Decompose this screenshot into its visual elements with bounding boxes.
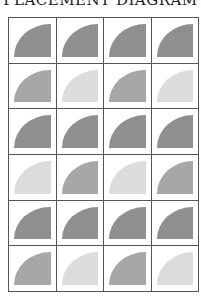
grid-cell <box>9 109 57 155</box>
quarter-circle-tile <box>62 24 99 57</box>
grid-cell <box>57 18 105 64</box>
grid-cell <box>9 155 57 201</box>
grid-cell <box>57 246 105 292</box>
quarter-circle-tile <box>14 24 51 57</box>
grid-cell <box>9 18 57 64</box>
quarter-circle-tile <box>14 70 51 103</box>
quarter-circle-tile <box>157 115 194 148</box>
grid-cell <box>9 201 57 247</box>
quarter-circle-tile <box>109 161 146 194</box>
placement-grid <box>8 17 199 292</box>
quarter-circle-tile <box>14 252 51 285</box>
quarter-circle-tile <box>157 252 194 285</box>
quarter-circle-tile <box>14 115 51 148</box>
quarter-circle-tile <box>14 207 51 240</box>
quarter-circle-tile <box>109 115 146 148</box>
quarter-circle-tile <box>109 24 146 57</box>
grid-cell <box>104 246 152 292</box>
grid-cell <box>152 18 200 64</box>
quarter-circle-tile <box>62 70 99 103</box>
quarter-circle-tile <box>109 70 146 103</box>
quarter-circle-tile <box>62 161 99 194</box>
grid-cell <box>9 246 57 292</box>
grid-cell <box>152 201 200 247</box>
grid-cell <box>9 64 57 110</box>
diagram-title: PLACEMENT DIAGRAM <box>0 0 201 9</box>
grid-cell <box>104 201 152 247</box>
grid-cell <box>104 109 152 155</box>
grid-cell <box>57 64 105 110</box>
quarter-circle-tile <box>14 161 51 194</box>
grid-cell <box>152 109 200 155</box>
quarter-circle-tile <box>62 252 99 285</box>
quarter-circle-tile <box>109 207 146 240</box>
grid-cell <box>57 155 105 201</box>
grid-cell <box>152 246 200 292</box>
grid-cell <box>104 155 152 201</box>
grid-cell <box>104 18 152 64</box>
grid-cell <box>104 64 152 110</box>
quarter-circle-tile <box>157 70 194 103</box>
quarter-circle-tile <box>109 252 146 285</box>
grid-cell <box>57 201 105 247</box>
quarter-circle-tile <box>62 207 99 240</box>
grid-cell <box>152 155 200 201</box>
quarter-circle-tile <box>157 207 194 240</box>
quarter-circle-tile <box>157 24 194 57</box>
grid-cell <box>57 109 105 155</box>
quarter-circle-tile <box>157 161 194 194</box>
grid-cell <box>152 64 200 110</box>
quarter-circle-tile <box>62 115 99 148</box>
